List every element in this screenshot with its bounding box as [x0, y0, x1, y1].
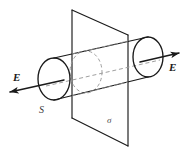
field-label-right: E — [169, 62, 176, 73]
cylinder-left-cap — [38, 58, 70, 100]
charge-plane-label: σ — [107, 116, 111, 125]
gaussian-surface-label: S — [39, 105, 44, 115]
field-label-left: E — [13, 72, 20, 83]
figure-canvas — [0, 0, 192, 156]
physics-figure-gauss-law-plane: E E S σ — [0, 0, 192, 156]
